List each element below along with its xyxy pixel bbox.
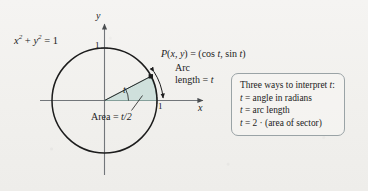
y-axis-tick-label-1: 1 [95, 40, 100, 51]
point-p-marker [149, 74, 153, 78]
equation-plus-sign: + [22, 35, 33, 46]
circle-equation-label: x2 + y2 = 1 [14, 33, 58, 47]
arc-length-label: Arc length = t [175, 62, 213, 86]
point-p-expression: (x, y) = (cos t, sin t) [167, 48, 245, 59]
interpretation-item-2: t = arc length [240, 104, 337, 117]
interpretation-item-1-text: = angle in radians [243, 93, 312, 103]
area-value: t/2 [121, 111, 132, 122]
interpretation-item-2-text: = arc length [243, 105, 290, 115]
interpretation-item-3: t = 2 · (area of sector) [240, 117, 337, 130]
area-text: Area = [91, 111, 121, 122]
interpretation-callout-box: Three ways to interpret t: t = angle in … [231, 73, 345, 136]
sector-area-label: Area = t/2 [91, 111, 132, 123]
arc-length-line-1: Arc [175, 62, 213, 74]
interpretation-item-3-text: = 2 · (area of sector) [243, 118, 322, 128]
point-p-coordinates-label: P(x, y) = (cos t, sin t) [161, 48, 246, 60]
x-axis-label: x [198, 102, 202, 114]
arc-length-text: length = [175, 74, 211, 85]
angle-t-label: t [123, 85, 126, 96]
x-axis-tick-label-1: 1 [158, 101, 163, 112]
interpretation-heading-text: Three ways to interpret [240, 80, 330, 90]
interpretation-heading: Three ways to interpret t: [240, 79, 337, 92]
arc-length-variable: t [211, 74, 214, 85]
interpretation-item-1: t = angle in radians [240, 92, 337, 105]
interpretation-heading-colon: : [332, 80, 335, 90]
y-axis-label: y [96, 10, 100, 22]
arc-length-line-2: length = t [175, 74, 213, 86]
equation-rhs: = 1 [42, 35, 58, 46]
figure-root: x2 + y2 = 1 y x 1 1 t P(x, y) = (cos t, … [0, 0, 368, 191]
